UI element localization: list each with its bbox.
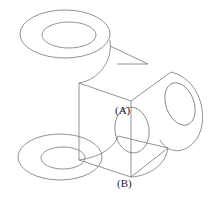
top-cylinder-edge <box>79 40 110 83</box>
top-ring <box>20 10 110 58</box>
bottom-ring <box>18 134 118 180</box>
label-a: (A) <box>115 105 130 116</box>
right-ring <box>159 72 202 151</box>
isometric-cube-with-rings-diagram <box>0 0 222 204</box>
label-b: (B) <box>117 178 132 189</box>
